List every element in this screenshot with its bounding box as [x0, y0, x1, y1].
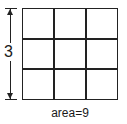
dimension-bottom-tick: [5, 99, 17, 100]
square-grid: [22, 8, 118, 100]
grid-vertical-line-2: [85, 9, 87, 99]
area-label: area=9: [0, 106, 127, 120]
grid-vertical-line-1: [53, 9, 55, 99]
arrow-down-icon: [7, 93, 13, 99]
side-length-label: 3: [4, 43, 13, 61]
grid-horizontal-line-2: [23, 68, 117, 70]
arrow-up-icon: [7, 9, 13, 15]
grid-horizontal-line-1: [23, 38, 117, 40]
